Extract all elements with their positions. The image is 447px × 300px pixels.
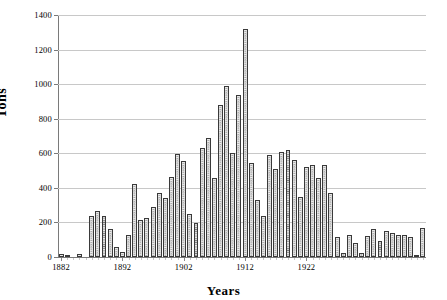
bar — [261, 216, 266, 257]
plot-area — [58, 15, 426, 257]
x-tick-mark — [184, 258, 185, 261]
x-minor-tick — [147, 258, 148, 260]
x-minor-tick — [153, 258, 154, 260]
bar — [408, 237, 413, 257]
x-axis-title: Years — [0, 283, 447, 299]
x-minor-tick — [110, 258, 111, 260]
y-axis-title: Tons — [0, 88, 10, 118]
bar — [157, 193, 162, 257]
bar — [292, 160, 297, 257]
bar — [365, 236, 370, 257]
x-minor-tick — [349, 258, 350, 260]
x-tick-label: 1882 — [41, 262, 81, 272]
bar — [187, 214, 192, 257]
bar — [194, 223, 199, 257]
x-minor-tick — [282, 258, 283, 260]
x-minor-tick — [263, 258, 264, 260]
x-minor-tick — [202, 258, 203, 260]
x-minor-tick — [251, 258, 252, 260]
x-minor-tick — [423, 258, 424, 260]
bar — [328, 193, 333, 257]
x-minor-tick — [405, 258, 406, 260]
x-minor-tick — [159, 258, 160, 260]
x-minor-tick — [276, 258, 277, 260]
bar — [132, 184, 137, 257]
x-minor-tick — [343, 258, 344, 260]
x-minor-tick — [374, 258, 375, 260]
x-tick-mark — [122, 258, 123, 261]
bar — [273, 169, 278, 257]
bar — [371, 229, 376, 257]
x-minor-tick — [86, 258, 87, 260]
bar — [243, 29, 248, 257]
x-minor-tick — [129, 258, 130, 260]
x-tick-mark — [61, 258, 62, 261]
x-minor-tick — [165, 258, 166, 260]
bar — [95, 211, 100, 257]
x-minor-tick — [288, 258, 289, 260]
bar — [181, 161, 186, 257]
bar — [304, 167, 309, 257]
chart-container: 0200400600800100012001400 18821892190219… — [0, 0, 447, 300]
bar — [279, 152, 284, 257]
y-tick-label: 0 — [0, 253, 52, 261]
bar — [414, 255, 419, 257]
x-minor-tick — [313, 258, 314, 260]
x-minor-tick — [233, 258, 234, 260]
bar-series — [58, 15, 426, 257]
bar — [77, 254, 82, 257]
bar — [286, 150, 291, 257]
y-tick-label: 600 — [0, 149, 52, 157]
bar — [316, 178, 321, 258]
x-minor-tick — [362, 258, 363, 260]
bar — [353, 243, 358, 257]
x-minor-tick — [116, 258, 117, 260]
y-tick-label: 1200 — [0, 46, 52, 54]
x-minor-tick — [386, 258, 387, 260]
x-minor-tick — [141, 258, 142, 260]
x-minor-tick — [98, 258, 99, 260]
bar — [212, 178, 217, 258]
bar — [396, 235, 401, 257]
x-minor-tick — [79, 258, 80, 260]
bar — [378, 241, 383, 257]
x-tick-label: 1912 — [225, 262, 265, 272]
bar — [347, 235, 352, 257]
bar — [390, 233, 395, 257]
x-minor-tick — [221, 258, 222, 260]
x-minor-tick — [104, 258, 105, 260]
bar — [335, 237, 340, 257]
bar — [108, 229, 113, 257]
bar — [310, 165, 315, 257]
x-minor-tick — [73, 258, 74, 260]
x-minor-tick — [325, 258, 326, 260]
x-minor-tick — [337, 258, 338, 260]
bar — [224, 86, 229, 257]
bar — [230, 153, 235, 257]
bar — [384, 231, 389, 257]
x-tick-label: 1922 — [286, 262, 326, 272]
bar — [236, 95, 241, 257]
y-tick-label: 400 — [0, 184, 52, 192]
bar — [120, 252, 125, 257]
bar — [59, 254, 64, 257]
y-tick-label: 200 — [0, 218, 52, 226]
x-minor-tick — [67, 258, 68, 260]
bar — [267, 155, 272, 257]
x-minor-tick — [135, 258, 136, 260]
bar — [298, 197, 303, 257]
bar — [255, 200, 260, 257]
x-minor-tick — [239, 258, 240, 260]
bar — [65, 255, 70, 257]
x-minor-tick — [319, 258, 320, 260]
x-minor-tick — [331, 258, 332, 260]
x-minor-tick — [392, 258, 393, 260]
x-minor-tick — [398, 258, 399, 260]
x-minor-tick — [196, 258, 197, 260]
bar — [402, 235, 407, 257]
bar — [359, 253, 364, 257]
x-minor-tick — [178, 258, 179, 260]
x-minor-tick — [257, 258, 258, 260]
bar — [126, 235, 131, 257]
bar — [420, 228, 425, 257]
